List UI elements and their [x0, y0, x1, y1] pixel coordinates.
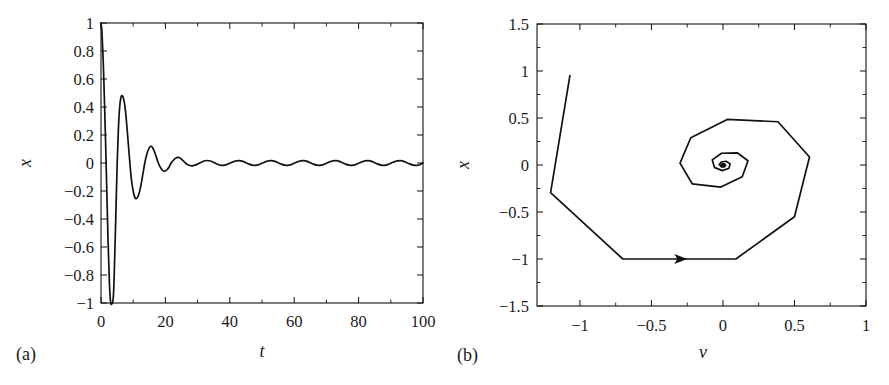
panel-b-svg: −1−0.500.511.510.50−0.5−1−1.5 ν x (b) [445, 0, 889, 385]
y-tick-label: 1 [521, 62, 529, 81]
x-tick-label: 40 [222, 312, 239, 331]
panel-a-data-curve [101, 23, 423, 305]
y-tick-label: 1 [86, 14, 94, 33]
panel-a-ylabel: x [15, 159, 35, 168]
panel-b-ylabel: x [453, 161, 473, 170]
y-tick-label: 0.5 [508, 109, 529, 128]
y-tick-label: 0.8 [73, 42, 94, 61]
x-tick-label: 60 [286, 312, 303, 331]
y-tick-label: 0.4 [73, 98, 94, 117]
x-tick-label: −1 [571, 316, 589, 335]
panel-a: 02040608010010.80.60.40.20−0.2−0.4−0.6−0… [0, 0, 445, 385]
y-tick-label: 0 [521, 156, 529, 175]
y-tick-label: −1 [511, 250, 529, 269]
panel-b-data-curve [551, 76, 810, 259]
y-tick-label: 0.2 [73, 126, 94, 145]
panel-b-ticks [537, 24, 866, 306]
x-tick-label: 20 [157, 312, 174, 331]
x-tick-label: 80 [350, 312, 367, 331]
panel-b-label: (b) [457, 345, 478, 366]
y-tick-label: −1 [76, 294, 94, 313]
panel-b: −1−0.500.511.510.50−0.5−1−1.5 ν x (b) [445, 0, 889, 385]
y-tick-label: 0 [86, 154, 94, 173]
panel-a-label: (a) [16, 344, 36, 365]
panel-b-tick-labels: −1−0.500.511.510.50−0.5−1−1.5 [499, 15, 870, 335]
x-tick-label: 0 [719, 316, 727, 335]
y-tick-label: −0.4 [64, 210, 94, 229]
figure-container: 02040608010010.80.60.40.20−0.2−0.4−0.6−0… [0, 0, 889, 385]
panel-b-xlabel: ν [699, 342, 707, 362]
panel-a-tick-labels: 02040608010010.80.60.40.20−0.2−0.4−0.6−0… [64, 14, 435, 331]
y-tick-label: −1.5 [499, 297, 529, 316]
y-tick-label: 1.5 [508, 15, 529, 34]
x-tick-label: −0.5 [636, 316, 666, 335]
y-tick-label: −0.5 [499, 203, 529, 222]
panel-b-axes-frame [537, 24, 866, 306]
x-tick-label: 0 [97, 312, 105, 331]
panel-a-svg: 02040608010010.80.60.40.20−0.2−0.4−0.6−0… [0, 0, 445, 385]
y-tick-label: 0.6 [73, 70, 94, 89]
panel-a-xlabel: t [259, 341, 265, 361]
y-tick-label: −0.6 [64, 238, 94, 257]
y-tick-label: −0.2 [64, 182, 94, 201]
x-tick-label: 100 [411, 312, 436, 331]
x-tick-label: 0.5 [784, 316, 805, 335]
y-tick-label: −0.8 [64, 266, 94, 285]
x-tick-label: 1 [862, 316, 870, 335]
